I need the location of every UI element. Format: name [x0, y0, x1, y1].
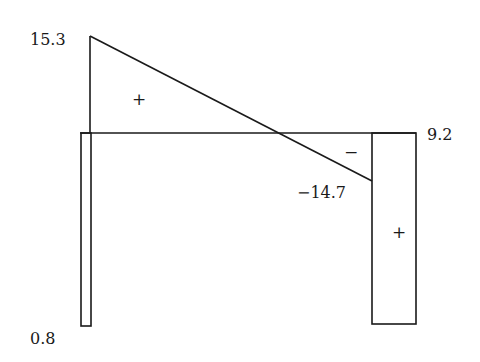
- left-column-diagram: [81, 133, 91, 326]
- negative-sign-beam: −: [344, 142, 358, 162]
- moment-diagram: 15.3 9.2 −14.7 0.8 + − +: [0, 0, 480, 362]
- positive-sign-right-column: +: [392, 222, 406, 242]
- value-label-0-8: 0.8: [30, 329, 55, 348]
- value-label-9-2: 9.2: [427, 125, 452, 144]
- positive-sign-beam: +: [132, 89, 146, 109]
- value-label-15-3: 15.3: [30, 30, 66, 49]
- value-label-neg-14-7: −14.7: [297, 183, 346, 202]
